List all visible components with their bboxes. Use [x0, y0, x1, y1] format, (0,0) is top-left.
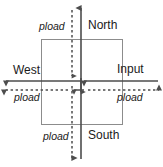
label-north: North [88, 19, 117, 31]
label-pload-south: pload [43, 131, 69, 142]
label-south: South [88, 129, 119, 141]
label-pload-north: pload [39, 21, 65, 32]
label-west: West [13, 64, 40, 76]
crossroads-diagram: pload North West Input pload pload pload… [0, 0, 163, 167]
diagram-canvas [0, 0, 163, 167]
label-pload-east: pload [117, 92, 143, 103]
label-pload-west: pload [14, 92, 40, 103]
label-input: Input [117, 63, 144, 75]
center-box [42, 40, 123, 125]
